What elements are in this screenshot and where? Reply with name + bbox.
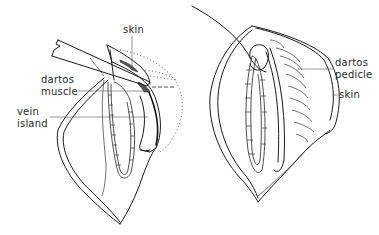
diagram-canvas: skin dartos muscle vein island dartos pe… xyxy=(0,0,379,235)
label-skin-left: skin xyxy=(123,24,144,35)
label-dartos-pedicle-line1: dartos xyxy=(335,57,368,68)
label-vein-island-line1: vein xyxy=(17,106,39,117)
label-dartos-muscle-line1: dartos xyxy=(41,74,74,85)
label-dartos-muscle-line2: muscle xyxy=(41,86,78,97)
label-skin-right: skin xyxy=(339,89,360,100)
label-vein-island-line2: island xyxy=(17,118,48,129)
label-dartos-pedicle-line2: pedicle xyxy=(335,69,372,80)
left-panel-illustration xyxy=(0,0,379,235)
